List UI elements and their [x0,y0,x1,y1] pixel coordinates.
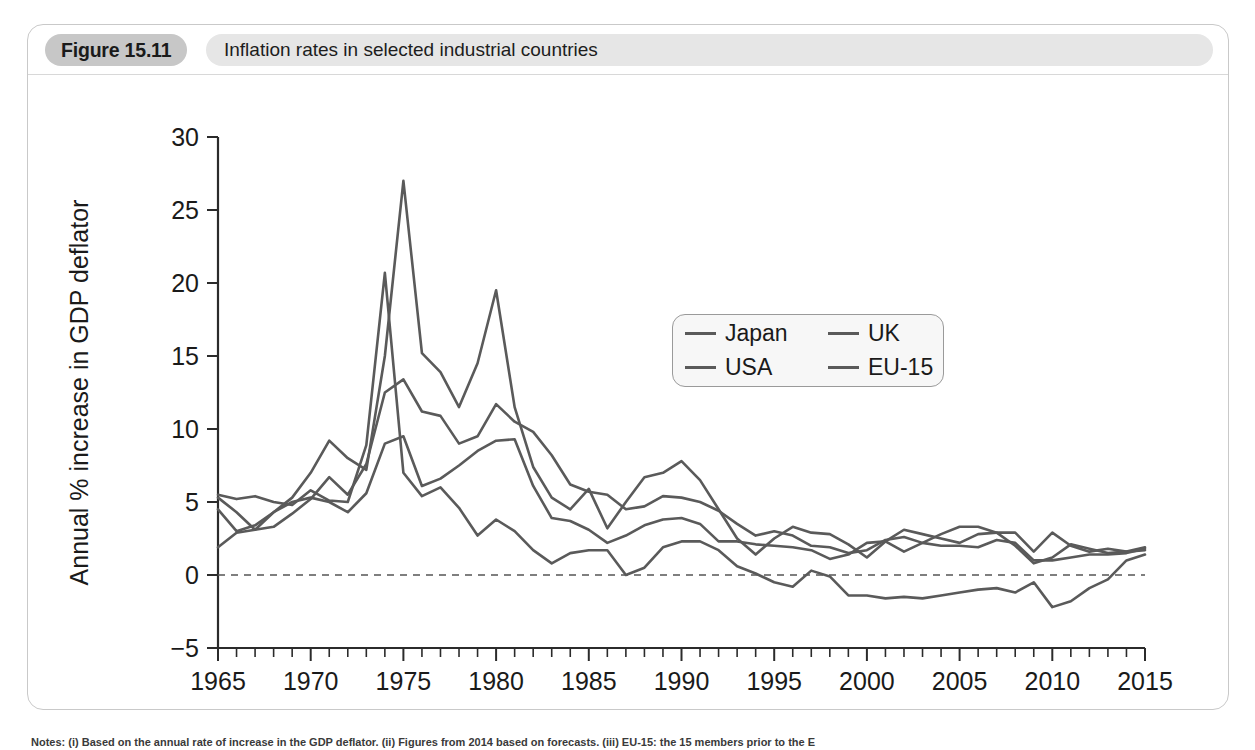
chart-legend: Japan UK USA EU-15 [672,314,944,387]
x-tick-label: 2000 [839,667,895,695]
x-tick-label: 1990 [654,667,710,695]
y-axis: 302520151050−5 [170,123,218,662]
legend-line-icon [685,332,716,335]
legend-line-icon [685,366,716,369]
x-tick-label: 2005 [932,667,988,695]
chart-plot-area: 302520151050−5 1965197019751980198519901… [28,75,1228,709]
y-tick-label: 0 [185,561,199,589]
y-tick-label: 5 [185,488,199,516]
x-tick-label: 1970 [283,667,339,695]
x-tick-label: 1975 [376,667,432,695]
figure-panel: Figure 15.11 Inflation rates in selected… [27,24,1229,710]
legend-item-usa: USA [685,356,828,379]
inflation-line-chart: 302520151050−5 1965197019751980198519901… [28,75,1227,709]
y-axis-title-text: Annual % increase in GDP deflator [65,200,93,586]
x-tick-label: 2015 [1117,667,1173,695]
legend-item-japan: Japan [685,322,828,345]
x-axis: 1965197019751980198519901995200020052010… [190,648,1173,695]
x-tick-label: 1980 [468,667,524,695]
figure-number-badge: Figure 15.11 [45,34,187,66]
x-tick-label: 1995 [746,667,802,695]
legend-line-icon [828,366,859,369]
x-tick-label: 2010 [1024,667,1080,695]
y-tick-label: 30 [171,123,199,151]
legend-item-uk: UK [828,322,957,345]
legend-label: USA [725,356,772,379]
figure-header: Figure 15.11 Inflation rates in selected… [28,25,1228,75]
y-axis-title: Annual % increase in GDP deflator [65,200,93,586]
y-tick-label: 15 [171,342,199,370]
legend-label: UK [868,322,900,345]
legend-label: EU-15 [868,356,933,379]
y-tick-label: 10 [171,415,199,443]
legend-line-icon [828,332,859,335]
data-series-group [218,181,1145,607]
series-line-usa [218,436,1145,563]
x-tick-label: 1965 [190,667,246,695]
y-tick-label: 25 [171,196,199,224]
legend-item-eu15: EU-15 [828,356,957,379]
x-tick-label: 1985 [561,667,617,695]
legend-label: Japan [725,322,788,345]
figure-title: Inflation rates in selected industrial c… [206,34,1213,66]
y-tick-label: −5 [170,634,199,662]
y-tick-label: 20 [171,269,199,297]
figure-notes: Notes: (i) Based on the annual rate of i… [31,736,1231,748]
